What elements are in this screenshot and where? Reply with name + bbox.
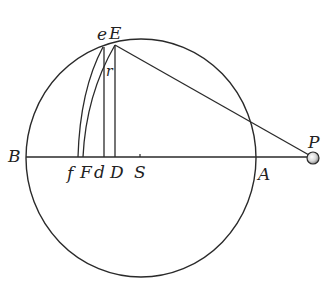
label-D: D — [110, 164, 124, 181]
label-f: f — [67, 165, 73, 182]
label-F: F — [80, 164, 92, 181]
curve-EF — [83, 45, 115, 157]
label-S: S — [134, 164, 146, 181]
label-d: d — [94, 164, 105, 181]
main-circle — [26, 39, 256, 277]
label-e: e — [97, 26, 107, 43]
label-A: A — [258, 166, 270, 183]
line-EP — [115, 45, 309, 155]
label-P: P — [308, 134, 319, 151]
curve-ef — [78, 47, 103, 157]
diagram-canvas — [0, 0, 332, 289]
label-B: B — [8, 148, 21, 165]
ball-P — [307, 152, 319, 164]
label-r: r — [106, 64, 113, 78]
label-E: E — [109, 25, 121, 42]
